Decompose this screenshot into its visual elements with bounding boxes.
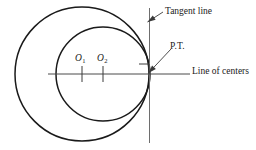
right-angle-marker	[139, 64, 149, 74]
center-2-subscript: 2	[104, 57, 107, 64]
arrowhead-tangent	[148, 15, 156, 22]
point-of-tangency-label: P.T.	[170, 42, 185, 52]
line-of-centers-label: Line of centers	[192, 67, 249, 77]
tangent-line-label: Tangent line	[165, 7, 212, 17]
center-1-label: O1	[75, 54, 85, 64]
center-1-letter: O	[75, 53, 82, 63]
geometry-figure: Tangent line P.T. Line of centers O1 O2	[0, 0, 256, 150]
center-2-letter: O	[97, 53, 104, 63]
center-1-subscript: 1	[82, 57, 85, 64]
center-2-label: O2	[97, 54, 107, 64]
